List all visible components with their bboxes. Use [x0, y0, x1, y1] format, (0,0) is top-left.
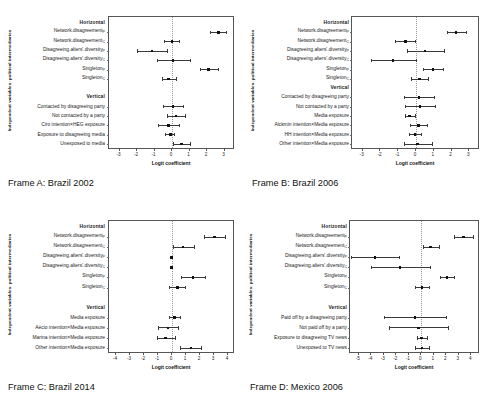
estimate-marker: [446, 276, 449, 279]
row-tick-mark: [348, 257, 350, 258]
variable-row-label: Paid off by a disagreeing party: [281, 314, 347, 319]
variable-row-label: Exposure to disagreeing TV news: [274, 334, 347, 339]
ci-cap-lower: [137, 49, 138, 52]
ci-cap-upper: [167, 49, 168, 52]
row-tick-mark: [350, 116, 352, 117]
x-axis-tick: [470, 353, 471, 355]
row-tick-mark: [107, 135, 109, 136]
ci-cap-lower: [415, 286, 416, 289]
x-axis-tick-label: -5: [356, 356, 360, 361]
section-header-label: Horizontal: [322, 224, 347, 229]
ci-cap-lower: [423, 68, 424, 71]
x-axis-tick: [451, 149, 452, 151]
plot-panel: [349, 220, 479, 353]
x-axis-tick-label: 4: [469, 356, 472, 361]
ci-cap-upper: [183, 105, 184, 108]
variable-row-label: HH intention×Media exposure: [284, 131, 349, 136]
estimate-marker: [182, 246, 185, 249]
estimate-marker: [173, 316, 176, 319]
ci-cap-lower: [417, 336, 418, 339]
ci-cap-upper: [175, 336, 176, 339]
variable-row-label: Contacted by disagreeing party: [37, 103, 105, 108]
row-tick-mark: [348, 237, 350, 238]
ci-cap-upper: [434, 96, 435, 99]
row-tick-mark: [107, 42, 109, 43]
ci-cap-upper: [427, 336, 428, 339]
variable-subscript: P: [345, 235, 347, 239]
row-tick-mark: [107, 288, 109, 289]
estimate-marker: [408, 115, 411, 118]
variable-row-label: Disagreeing.alters'.diversityP: [43, 253, 105, 259]
variable-subscript: C: [102, 265, 105, 269]
plot-panel: [351, 16, 479, 149]
variable-row-label: Unexposed to TV news: [297, 345, 347, 350]
x-axis-tick-label: 2: [198, 356, 201, 361]
x-axis-tick-label: -4: [113, 356, 117, 361]
x-axis-tick: [433, 149, 434, 151]
x-axis-tick: [119, 149, 120, 151]
x-axis-tick: [213, 353, 214, 355]
section-header-label: Horizontal: [80, 224, 105, 229]
x-axis-tick-label: 4: [226, 356, 229, 361]
x-axis-tick-label: 0: [414, 152, 417, 157]
ci-cap-upper: [432, 142, 433, 145]
row-tick-mark: [107, 32, 109, 33]
variable-subscript: P: [347, 30, 349, 34]
x-axis-tick-label: 3: [456, 356, 459, 361]
variable-subscript: P: [103, 68, 105, 72]
row-tick-mark: [107, 125, 109, 126]
y-axis-title-text: Independent variables: political interme…: [8, 30, 13, 132]
row-tick-mark: [348, 267, 350, 268]
x-axis-tick: [129, 353, 130, 355]
variable-row-label: Ciro intention×HEG exposure: [41, 122, 105, 127]
ci-cap-upper: [439, 245, 440, 248]
variable-subscript: P: [103, 235, 105, 239]
y-axis-title: Independent variables: political interme…: [3, 218, 17, 351]
row-tick-mark: [107, 338, 109, 339]
x-axis-tick-label: 1: [431, 152, 434, 157]
estimate-marker: [192, 276, 195, 279]
x-axis-tick: [143, 353, 144, 355]
estimate-marker: [417, 124, 420, 127]
estimate-marker: [170, 256, 173, 259]
estimate-marker: [419, 105, 422, 108]
section-header-label: Vertical: [86, 304, 105, 309]
x-axis-tick: [383, 353, 384, 355]
ci-cap-upper: [218, 68, 219, 71]
variable-subscript: C: [346, 77, 349, 81]
plot-panel: [108, 220, 234, 353]
estimate-marker: [392, 59, 395, 62]
ci-cap-lower: [407, 49, 408, 52]
variable-subscript: C: [102, 40, 105, 44]
estimate-marker: [167, 327, 170, 330]
variable-row-label: Network.disagreementC: [53, 243, 105, 249]
x-axis-tick: [408, 353, 409, 355]
estimate-marker: [164, 337, 167, 340]
chart-frame-frame-d: Independent variables: political interme…: [246, 204, 493, 408]
variable-row-label: SingletonP: [82, 66, 105, 72]
section-header-label: Horizontal: [80, 20, 105, 25]
x-axis-tick: [468, 149, 469, 151]
variable-subscript: C: [346, 58, 349, 62]
variable-row-label: Network.disagreementC: [295, 243, 347, 249]
row-tick-mark: [107, 144, 109, 145]
variable-subscript: P: [345, 255, 347, 259]
ci-cap-lower: [204, 235, 205, 238]
x-axis-tick: [189, 149, 190, 151]
ci-cap-lower: [384, 316, 385, 319]
estimate-marker: [420, 337, 423, 340]
row-tick-mark: [107, 60, 109, 61]
ci-cap-lower: [409, 133, 410, 136]
row-tick-mark: [107, 237, 109, 238]
x-axis-tick-label: 1: [431, 356, 434, 361]
ci-cap-upper: [444, 49, 445, 52]
ci-cap-upper: [399, 256, 400, 259]
variable-row-label: SingletonC: [326, 75, 349, 81]
row-tick-mark: [107, 116, 109, 117]
row-tick-mark: [348, 338, 350, 339]
variable-subscript: P: [347, 49, 349, 53]
x-axis-tick-label: 3: [222, 152, 225, 157]
y-axis-title-text: Independent variables: political interme…: [249, 234, 254, 336]
estimate-marker: [213, 236, 216, 239]
chart-frame-frame-a: Independent variables: political interme…: [0, 0, 246, 204]
